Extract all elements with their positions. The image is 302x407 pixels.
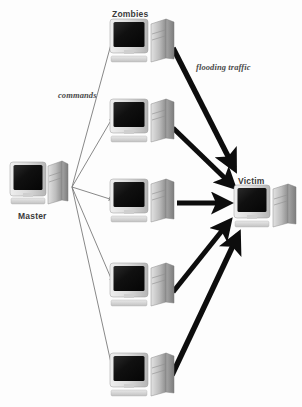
- zombie-2-tower: [151, 99, 174, 142]
- computer-zombie-1: [110, 19, 174, 62]
- computer-zombie-4: [110, 263, 174, 306]
- zombie-4-tower: [151, 263, 174, 306]
- command-arrow-4: [72, 187, 113, 283]
- flooding-arrow-group: [172, 48, 238, 375]
- master-label: Master: [18, 211, 47, 221]
- command-arrow-group: [72, 37, 113, 372]
- command-arrow-1: [72, 37, 113, 187]
- computer-zombie-2: [110, 99, 174, 142]
- master-monitor: [10, 162, 46, 204]
- zombie-5-tower: [151, 353, 174, 396]
- victim-label: Victim: [238, 176, 265, 186]
- computer-zombie-3: [110, 179, 174, 222]
- zombie-3-monitor: [110, 179, 148, 222]
- zombie-2-monitor: [110, 99, 148, 142]
- zombie-1-tower: [151, 19, 174, 62]
- flooding-traffic-edge-label: flooding traffic: [196, 62, 251, 72]
- victim-tower: [273, 184, 296, 227]
- victim-monitor: [234, 185, 270, 227]
- command-arrow-2: [72, 117, 113, 187]
- flooding-arrow-2: [173, 128, 233, 186]
- diagram-canvas: [0, 0, 302, 407]
- flooding-arrow-4: [173, 222, 229, 292]
- computer-zombie-5: [110, 353, 174, 396]
- ddos-diagram: Zombies Master Victim commands flooding …: [0, 0, 302, 407]
- zombie-4-monitor: [110, 263, 148, 306]
- computer-master: [10, 161, 68, 204]
- computer-victim: [234, 184, 296, 227]
- master-tower: [48, 161, 68, 204]
- commands-edge-label: commands: [58, 90, 97, 100]
- zombie-1-monitor: [110, 19, 148, 62]
- command-arrow-5: [72, 187, 113, 372]
- zombies-label: Zombies: [112, 9, 148, 19]
- command-arrow-3: [72, 187, 113, 200]
- zombie-5-monitor: [110, 353, 148, 396]
- zombie-3-tower: [151, 179, 174, 222]
